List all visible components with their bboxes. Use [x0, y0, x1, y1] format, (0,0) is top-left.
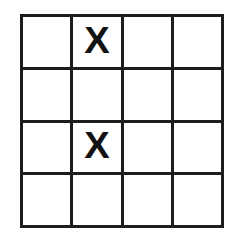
grid-cell-r3-c2[interactable]: X	[73, 123, 120, 173]
grid-cell-r2-c4[interactable]	[174, 70, 221, 120]
grid-cell-r2-c2[interactable]	[73, 70, 120, 120]
grid-cell-r4-c2[interactable]	[73, 175, 120, 225]
grid-cell-r3-c1[interactable]	[23, 123, 70, 173]
grid-cell-r1-c4[interactable]	[174, 17, 221, 67]
grid-cell-r1-c2[interactable]: X	[73, 17, 120, 67]
grid-cell-r3-c3[interactable]	[124, 123, 171, 173]
grid-cell-r4-c3[interactable]	[124, 175, 171, 225]
grid-cell-r3-c4[interactable]	[174, 123, 221, 173]
grid-cell-r2-c3[interactable]	[124, 70, 171, 120]
grid-cell-r1-c3[interactable]	[124, 17, 171, 67]
grid-cell-r1-c1[interactable]	[23, 17, 70, 67]
grid-cell-r4-c1[interactable]	[23, 175, 70, 225]
grid-board: XX	[20, 14, 224, 228]
grid-cell-r4-c4[interactable]	[174, 175, 221, 225]
grid-cell-r2-c1[interactable]	[23, 70, 70, 120]
x-mark-icon: X	[84, 128, 109, 164]
x-mark-icon: X	[84, 23, 109, 59]
